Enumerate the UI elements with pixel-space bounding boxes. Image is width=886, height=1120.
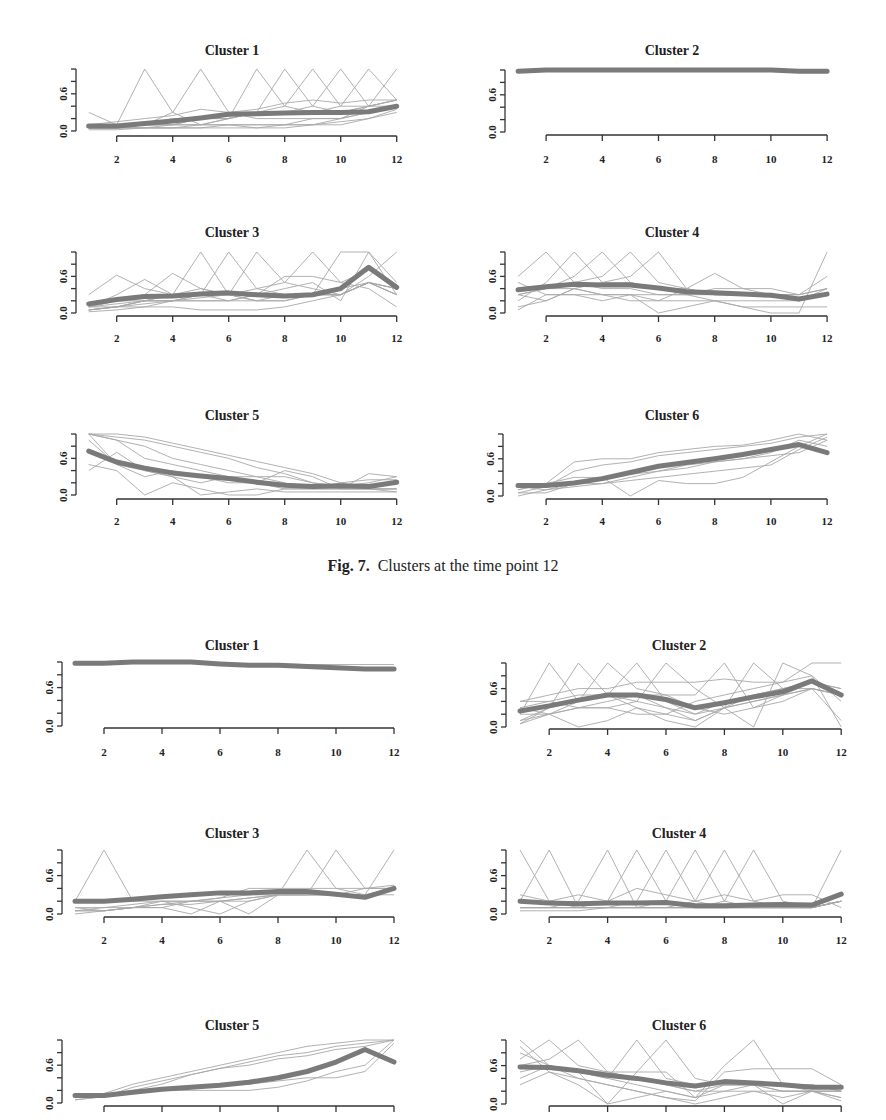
member-line (520, 850, 841, 908)
x-tick-label: 10 (777, 934, 789, 946)
x-tick-label: 4 (159, 746, 165, 758)
x-tick-label: 10 (765, 515, 777, 527)
x-tick-label: 4 (170, 153, 176, 165)
x-tick-label: 6 (656, 153, 662, 165)
x-tick-label: 4 (170, 332, 176, 344)
member-line (520, 663, 841, 701)
x-tick-label: 8 (722, 746, 728, 758)
y-tick-label: 0.6 (57, 451, 69, 465)
x-tick-label: 10 (331, 934, 343, 946)
x-tick-label: 2 (546, 746, 552, 758)
y-tick-label: 0.6 (487, 868, 499, 882)
member-line (520, 850, 841, 908)
x-tick-label: 4 (605, 746, 611, 758)
x-tick-label: 6 (663, 746, 669, 758)
cluster-panel-4: Cluster 40.00.624681012 (486, 225, 833, 344)
cluster-panel-8: Cluster 20.00.624681012 (487, 638, 847, 758)
x-tick-label: 4 (170, 515, 176, 527)
x-tick-label: 12 (391, 153, 403, 165)
x-tick-label: 8 (712, 332, 718, 344)
y-tick-label: 0.0 (43, 907, 55, 921)
x-tick-label: 4 (159, 934, 165, 946)
centroid-line (520, 681, 841, 711)
x-tick-label: 12 (391, 332, 403, 344)
member-line (520, 663, 841, 721)
x-tick-label: 8 (722, 934, 728, 946)
y-tick-label: 0.0 (57, 124, 69, 138)
x-tick-label: 12 (836, 746, 848, 758)
member-line (75, 850, 394, 914)
x-tick-label: 10 (331, 746, 343, 758)
x-tick-label: 2 (114, 515, 120, 527)
cluster-panel-12: Cluster 60.00.6 (487, 1018, 841, 1112)
member-line (520, 850, 841, 908)
x-tick-label: 10 (765, 332, 777, 344)
y-tick-label: 0.0 (57, 488, 69, 502)
x-tick-label: 2 (114, 153, 120, 165)
member-line (75, 1040, 394, 1100)
member-line (518, 252, 827, 301)
x-tick-label: 6 (656, 515, 662, 527)
y-tick-label: 0.6 (57, 86, 69, 100)
centroid-line (75, 662, 394, 669)
y-tick-label: 0.0 (487, 1097, 499, 1111)
x-tick-label: 8 (275, 746, 281, 758)
y-tick-label: 0.0 (487, 907, 499, 921)
x-tick-label: 6 (656, 332, 662, 344)
centroid-line (520, 1067, 841, 1087)
x-tick-label: 4 (600, 515, 606, 527)
caption-label: Fig. 7. (327, 557, 369, 574)
panel-title: Cluster 5 (205, 1018, 260, 1033)
member-line (89, 69, 397, 128)
x-tick-label: 2 (546, 934, 552, 946)
panel-title: Cluster 3 (205, 225, 260, 240)
x-tick-label: 2 (114, 332, 120, 344)
member-line (89, 69, 397, 128)
member-line (518, 252, 827, 301)
member-line (89, 69, 397, 128)
x-tick-label: 8 (712, 153, 718, 165)
panel-title: Cluster 4 (645, 225, 700, 240)
centroid-line (75, 1049, 394, 1095)
x-tick-label: 2 (543, 515, 549, 527)
panel-title: Cluster 6 (652, 1018, 707, 1033)
member-line (89, 69, 397, 128)
y-tick-label: 0.0 (57, 306, 69, 320)
x-tick-label: 8 (275, 934, 281, 946)
y-tick-label: 0.6 (487, 681, 499, 695)
member-line (520, 850, 841, 908)
x-tick-label: 6 (217, 746, 223, 758)
x-tick-label: 12 (389, 934, 401, 946)
y-tick-label: 0.6 (43, 868, 55, 882)
y-tick-label: 0.0 (487, 720, 499, 734)
y-tick-label: 0.0 (486, 125, 498, 139)
member-line (520, 663, 841, 721)
cluster-panel-5: Cluster 50.00.624681012 (57, 408, 403, 527)
x-tick-label: 10 (765, 153, 777, 165)
member-line (89, 434, 397, 483)
x-tick-label: 8 (282, 515, 288, 527)
y-tick-label: 0.6 (487, 1058, 499, 1072)
member-line (89, 69, 397, 128)
y-tick-label: 0.6 (43, 680, 55, 694)
cluster-panel-9: Cluster 30.00.624681012 (43, 826, 400, 946)
member-line (75, 1040, 394, 1097)
x-tick-label: 12 (391, 515, 403, 527)
member-line (89, 69, 397, 128)
x-tick-label: 2 (101, 746, 107, 758)
panel-title: Cluster 6 (645, 408, 700, 423)
member-line (520, 850, 841, 908)
panel-title: Cluster 5 (205, 408, 260, 423)
x-tick-label: 12 (822, 153, 834, 165)
centroid-line (518, 284, 827, 299)
figure-caption: Fig. 7. Clusters at the time point 12 (0, 557, 886, 575)
x-tick-label: 10 (335, 153, 347, 165)
cluster-panel-6: Cluster 60.00.624681012 (484, 408, 833, 527)
member-line (518, 252, 827, 301)
cluster-panel-3: Cluster 30.00.624681012 (57, 225, 403, 344)
panel-title: Cluster 2 (652, 638, 707, 653)
x-tick-label: 12 (836, 934, 848, 946)
x-tick-label: 6 (226, 332, 232, 344)
member-line (520, 663, 841, 721)
cluster-panel-2: Cluster 20.00.624681012 (486, 43, 833, 165)
